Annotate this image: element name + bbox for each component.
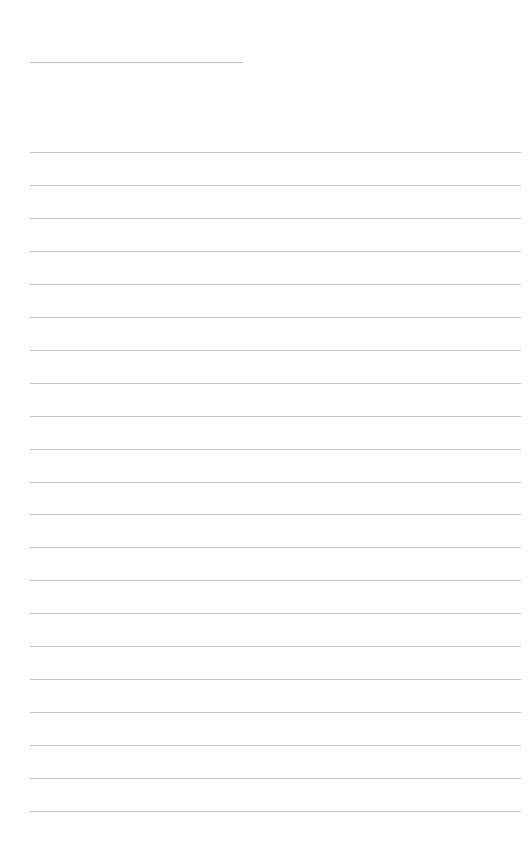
ruled-line <box>30 745 521 746</box>
ruled-line <box>30 317 521 318</box>
ruled-line <box>30 449 521 450</box>
ruled-line <box>30 712 521 713</box>
lined-page <box>0 0 530 866</box>
ruled-line <box>30 350 521 351</box>
ruled-line <box>30 185 521 186</box>
ruled-line <box>30 514 521 515</box>
ruled-line <box>30 613 521 614</box>
ruled-line <box>30 383 521 384</box>
ruled-line <box>30 679 521 680</box>
ruled-line <box>30 580 521 581</box>
ruled-line <box>30 547 521 548</box>
ruled-line <box>30 251 521 252</box>
ruled-line <box>30 811 521 812</box>
ruled-line <box>30 284 521 285</box>
header-title-line <box>30 62 243 63</box>
ruled-line <box>30 482 521 483</box>
ruled-line <box>30 218 521 219</box>
ruled-line <box>30 416 521 417</box>
ruled-line <box>30 778 521 779</box>
ruled-line <box>30 646 521 647</box>
ruled-line <box>30 152 521 153</box>
